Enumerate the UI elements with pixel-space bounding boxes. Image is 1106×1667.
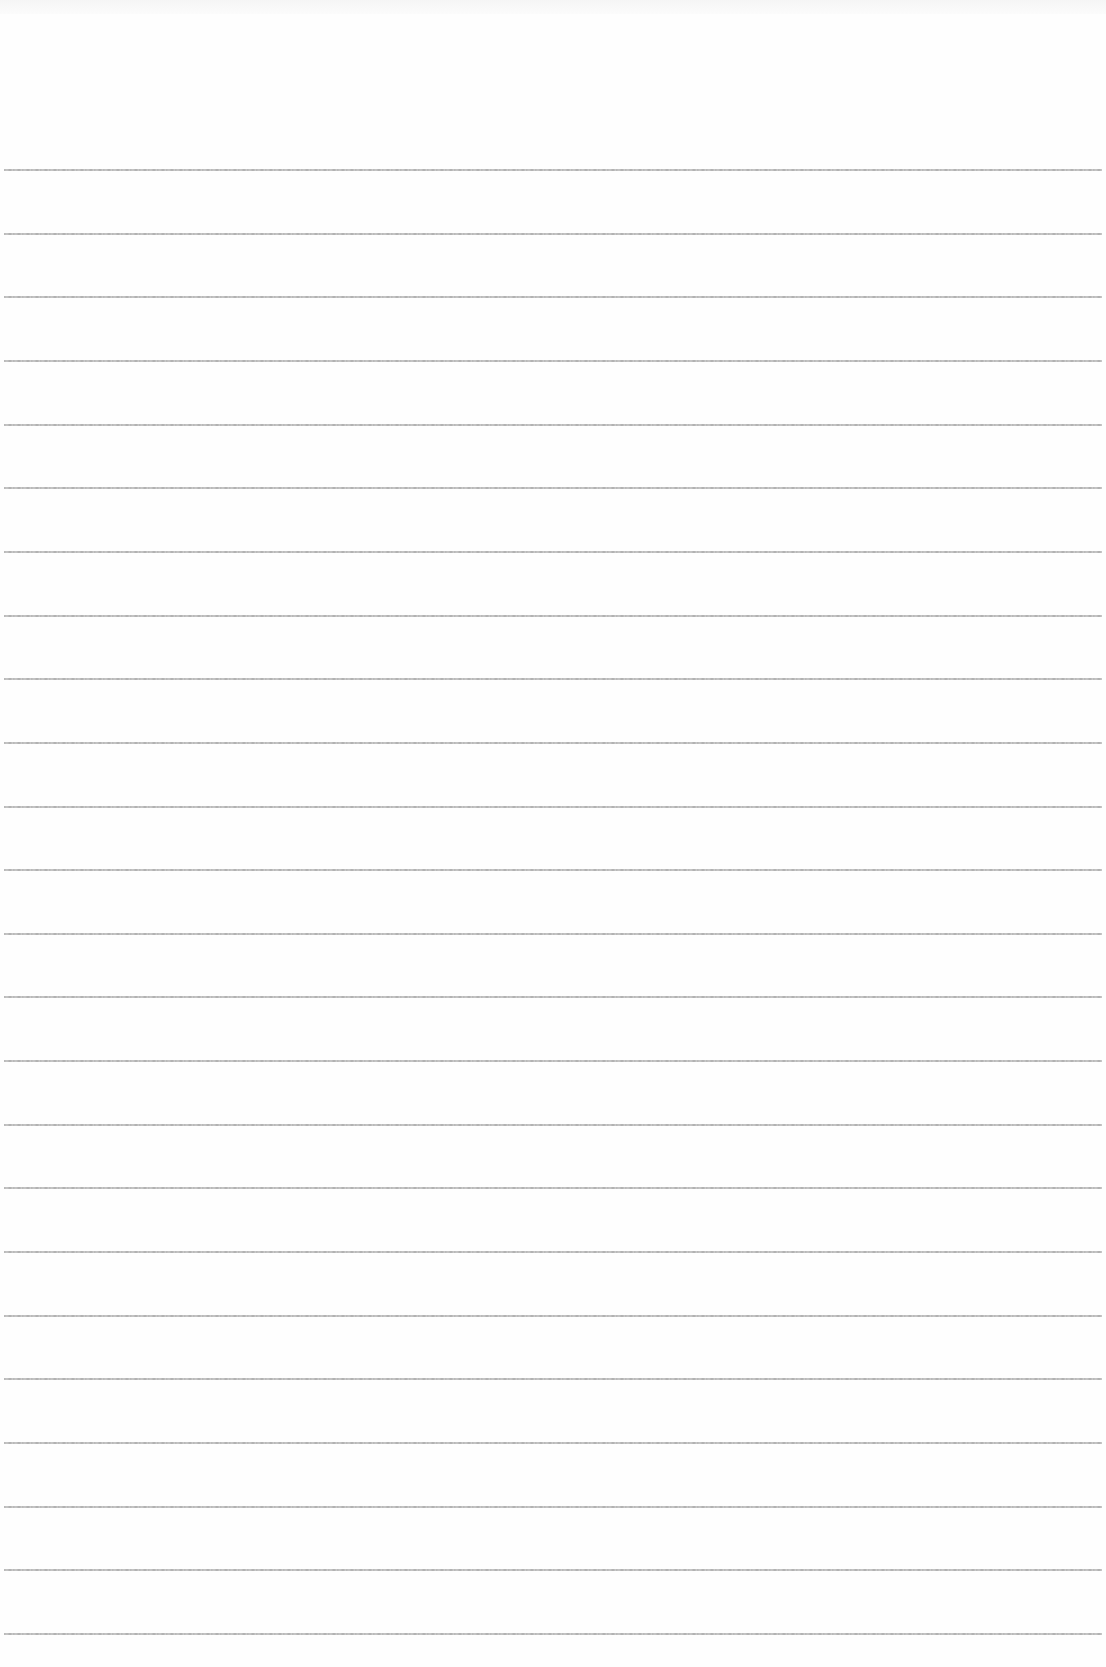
ruled-line <box>4 233 1102 235</box>
ruled-line <box>4 1315 1102 1317</box>
ruled-line <box>4 1633 1102 1635</box>
ruled-line <box>4 1378 1102 1380</box>
faint-header-strip <box>0 0 1106 14</box>
ruled-line <box>4 1569 1102 1571</box>
ruled-line <box>4 1124 1102 1126</box>
ruled-line <box>4 296 1102 298</box>
ruled-line <box>4 678 1102 680</box>
ruled-line <box>4 1506 1102 1508</box>
ruled-line <box>4 933 1102 935</box>
ruled-line <box>4 424 1102 426</box>
ruled-line <box>4 169 1102 171</box>
ruled-line <box>4 869 1102 871</box>
ruled-line <box>4 996 1102 998</box>
ruled-line <box>4 615 1102 617</box>
ruled-line <box>4 360 1102 362</box>
ruled-line <box>4 551 1102 553</box>
ruled-line <box>4 806 1102 808</box>
ruled-line <box>4 1251 1102 1253</box>
ruled-line <box>4 1060 1102 1062</box>
lined-paper-page <box>0 0 1106 1667</box>
ruled-line <box>4 487 1102 489</box>
ruled-line <box>4 742 1102 744</box>
ruled-line <box>4 1442 1102 1444</box>
ruled-line <box>4 1187 1102 1189</box>
